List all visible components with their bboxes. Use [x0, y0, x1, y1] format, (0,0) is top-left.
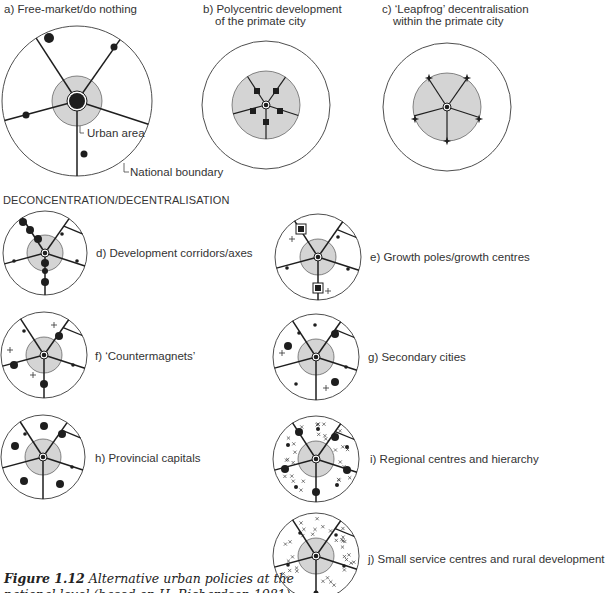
- diagram-g-secondary-cities: [273, 314, 359, 400]
- diagram-h-provincial-capitals: [1, 415, 85, 499]
- city-dot: [10, 361, 18, 369]
- primate-city-dot: [41, 455, 46, 460]
- national-boundary-leader-line: [124, 163, 129, 172]
- figure-caption: Figure 1.12 Alternative urban policies a…: [4, 571, 294, 593]
- city-dot: [34, 235, 42, 243]
- city-dot: [286, 443, 290, 447]
- city-dot: [60, 232, 64, 236]
- city-dot: [342, 564, 346, 568]
- title-c-line2: within the primate city: [393, 15, 504, 28]
- city-dot: [23, 432, 27, 436]
- city-dot: [26, 226, 34, 234]
- city-dot: [331, 433, 339, 441]
- diagram-a-free-market: [2, 26, 152, 176]
- city-dot: [75, 259, 79, 263]
- city-dot: [20, 477, 28, 485]
- title-a: a) Free-market/do nothing: [4, 3, 137, 16]
- city-dot: [71, 363, 75, 367]
- city-dot: [42, 268, 48, 274]
- city-dot: [313, 323, 317, 327]
- city-dot: [312, 488, 320, 496]
- primate-city-dot: [314, 355, 319, 360]
- diagram-c-leapfrog: [383, 43, 511, 171]
- city-dot: [294, 485, 298, 489]
- subcentre-square-icon: [277, 108, 283, 114]
- city-dot: [56, 480, 64, 488]
- city-dot: [81, 151, 88, 158]
- primate-city-dot: [314, 457, 319, 462]
- label-e: e) Growth poles/growth centres: [370, 251, 530, 264]
- city-dot: [331, 378, 339, 386]
- diagram-f-countermagnets: [1, 312, 87, 398]
- city-dot: [40, 380, 48, 388]
- city-dot: [295, 428, 303, 436]
- city-dot: [40, 422, 48, 430]
- city-dot: [286, 563, 290, 567]
- subcentre-square-icon: [273, 88, 279, 94]
- primate-city-dot: [43, 251, 48, 256]
- city-dot: [345, 445, 349, 449]
- city-dot: [316, 427, 320, 431]
- city-dot: [334, 533, 338, 537]
- city-dot: [111, 44, 118, 51]
- city-dot: [41, 278, 49, 286]
- diagram-e-growth-poles: [275, 214, 361, 300]
- city-dot: [70, 465, 74, 469]
- section-heading: DECONCENTRATION/DECENTRALISATION: [3, 194, 229, 206]
- city-dot: [298, 531, 302, 535]
- label-d: d) Development corridors/axes: [96, 247, 253, 260]
- city-dot: [297, 331, 301, 335]
- caption-text-line2: national level (based on H. Richardson 1…: [4, 587, 294, 593]
- subcentre-square-icon: [250, 108, 256, 114]
- primate-city-dot: [316, 255, 321, 260]
- primate-city-dot: [314, 554, 319, 559]
- city-dot: [331, 330, 339, 338]
- label-h: h) Provincial capitals: [95, 452, 200, 465]
- city-dot: [23, 112, 30, 119]
- subcentre-square-icon: [254, 88, 260, 94]
- primate-city-dot: [69, 93, 85, 109]
- city-dot: [19, 218, 27, 226]
- city-dot: [344, 365, 348, 369]
- city-dot: [294, 382, 298, 386]
- label-f: f) ‘Countermagnets’: [95, 350, 195, 363]
- city-dot: [11, 442, 19, 450]
- primate-city-dot: [42, 353, 47, 358]
- urban-area-callout: Urban area: [87, 127, 145, 140]
- city-dot: [22, 329, 26, 333]
- diagram-d-development-corridors: [3, 211, 87, 295]
- city-dot: [281, 465, 289, 473]
- city-dot: [336, 235, 340, 239]
- growth-pole-square-icon: [298, 226, 304, 232]
- figure-number: Figure 1.12: [4, 571, 85, 586]
- city-dot: [346, 267, 350, 271]
- city-dot: [44, 33, 54, 43]
- title-b-line2: of the primate city: [215, 15, 306, 28]
- city-dot: [343, 466, 351, 474]
- caption-text-line1: Alternative urban policies at the: [89, 571, 294, 586]
- city-dot: [41, 259, 49, 267]
- primate-city-dot: [445, 105, 450, 110]
- label-i: i) Regional centres and hierarchy: [370, 453, 539, 466]
- diagram-i-regional-centres: [273, 416, 359, 502]
- label-g: g) Secondary cities: [368, 351, 466, 364]
- primate-city-dot: [264, 103, 269, 108]
- city-dot: [284, 342, 292, 350]
- city-dot: [335, 483, 339, 487]
- national-boundary-callout: National boundary: [130, 166, 223, 179]
- city-dot: [12, 259, 16, 263]
- city-dot: [58, 430, 66, 438]
- city-dot: [285, 266, 289, 270]
- label-j: j) Small service centres and rural devel…: [368, 553, 605, 566]
- city-dot: [55, 332, 63, 340]
- diagram-b-polycentric: [202, 41, 330, 169]
- subcentre-square-icon: [263, 119, 269, 125]
- growth-pole-square-icon: [315, 285, 321, 291]
